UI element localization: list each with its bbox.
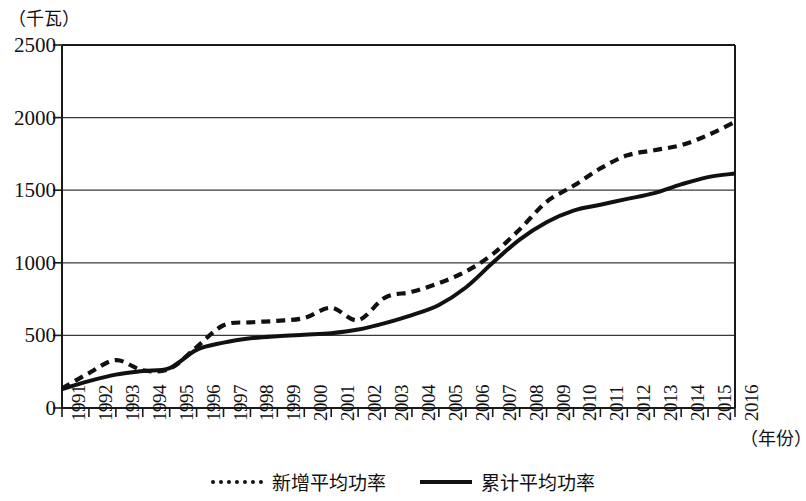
y-tick-label: 2500 — [0, 35, 56, 56]
x-tick-label: 1996 — [204, 385, 223, 421]
y-tick-label: 500 — [0, 325, 56, 346]
dashed-line-swatch-icon — [211, 480, 263, 484]
x-tick-label: 1999 — [284, 385, 303, 421]
x-tick-label: 2012 — [634, 385, 653, 421]
legend-item-cumulative-average-power: 累计平均功率 — [420, 468, 595, 495]
x-tick-label: 2007 — [500, 385, 519, 421]
plot-svg — [0, 0, 806, 501]
y-tick-label: 1500 — [0, 180, 56, 201]
x-tick-label: 1995 — [177, 385, 196, 421]
x-tick-label: 2016 — [742, 385, 761, 421]
gridlines-group — [62, 45, 735, 408]
x-tick-label: 2002 — [365, 385, 384, 421]
x-tick-label: 2004 — [419, 385, 438, 421]
series-group — [62, 122, 735, 389]
x-tick-label: 1997 — [231, 385, 250, 421]
x-tick-label: 1992 — [96, 385, 115, 421]
x-tick-label: 2014 — [688, 385, 707, 421]
x-tick-label: 2008 — [527, 385, 546, 421]
x-tick-label: 2009 — [554, 385, 573, 421]
x-tick-label: 2006 — [473, 385, 492, 421]
x-tick-label: 1994 — [150, 385, 169, 421]
x-tick-label: 2005 — [446, 385, 465, 421]
chart-container: （千瓦） 05001000150020002500 19911992199319… — [0, 0, 806, 501]
chart-legend: 新增平均功率 累计平均功率 — [0, 468, 806, 495]
x-tick-label: 2010 — [580, 385, 599, 421]
legend-label-new-average-power: 新增平均功率 — [272, 468, 386, 495]
series-line-2 — [62, 174, 735, 390]
legend-label-cumulative-average-power: 累计平均功率 — [481, 468, 595, 495]
y-tick-label: 2000 — [0, 108, 56, 129]
series-line-1 — [62, 122, 735, 388]
x-tick-label: 2000 — [311, 385, 330, 421]
legend-item-new-average-power: 新增平均功率 — [211, 468, 386, 495]
x-tick-label: 2003 — [392, 385, 411, 421]
x-axis-unit-label: （年份） — [740, 424, 806, 450]
x-tick-label: 1993 — [123, 385, 142, 421]
x-tick-marks-group — [53, 45, 735, 417]
x-tick-label: 1991 — [69, 385, 88, 421]
x-tick-label: 1998 — [257, 385, 276, 421]
x-tick-label: 2013 — [661, 385, 680, 421]
plot-frame — [62, 45, 735, 408]
x-tick-label: 2001 — [338, 385, 357, 421]
x-tick-label: 2015 — [715, 385, 734, 421]
y-tick-label: 1000 — [0, 253, 56, 274]
y-tick-label: 0 — [0, 398, 56, 419]
solid-line-swatch-icon — [420, 480, 472, 484]
x-tick-label: 2011 — [607, 386, 626, 421]
